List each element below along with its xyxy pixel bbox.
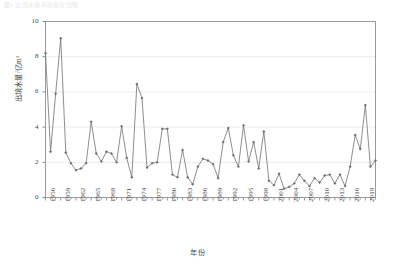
x-tick-label: 1974 (140, 187, 148, 201)
data-point-marker (354, 134, 356, 136)
x-tick-label: 2001 (277, 187, 285, 201)
data-point-marker (263, 130, 265, 132)
x-tick-label: 2004 (292, 187, 300, 201)
data-point-marker (136, 83, 138, 85)
x-tick-label: 1995 (247, 187, 255, 201)
y-tick-label: 4 (23, 123, 39, 131)
x-tick-label: 1965 (94, 187, 102, 201)
plot-frame (46, 22, 376, 198)
data-point-marker (364, 104, 366, 106)
data-line (46, 38, 376, 188)
x-tick-label: 2010 (323, 187, 331, 201)
data-point-marker (156, 161, 158, 163)
x-tick-label: 1977 (155, 187, 163, 201)
data-point-marker (55, 93, 57, 95)
y-tick-label: 10 (23, 17, 39, 25)
data-point-marker (49, 151, 51, 153)
y-tick-label: 6 (23, 87, 39, 95)
data-point-marker (349, 166, 351, 168)
data-point-marker (141, 97, 143, 99)
data-point-marker (222, 141, 224, 143)
x-tick-label: 1986 (201, 187, 209, 201)
data-point-marker (166, 128, 168, 130)
x-tick-label: 2013 (338, 187, 346, 201)
x-tick-label: 1983 (186, 187, 194, 201)
x-tick-label: 1980 (170, 187, 178, 201)
x-tick-label: 1962 (79, 187, 87, 201)
line-chart (0, 0, 395, 266)
x-tick-label: 1971 (125, 187, 133, 201)
data-point-marker (90, 121, 92, 123)
data-point-marker (44, 52, 46, 54)
x-tick-label: 1959 (64, 187, 72, 201)
data-point-marker (60, 37, 62, 39)
data-point-marker (242, 124, 244, 126)
data-point-marker (253, 141, 255, 143)
x-tick-label: 2016 (353, 187, 361, 201)
x-tick-label: 1989 (216, 187, 224, 201)
x-tick-label: 1968 (109, 187, 117, 201)
data-point-marker (161, 128, 163, 130)
x-tick-label: 1956 (49, 187, 57, 201)
x-tick-label: 1992 (231, 187, 239, 201)
data-point-marker (126, 157, 128, 159)
x-tick-label: 1998 (262, 187, 270, 201)
data-point-marker (131, 176, 133, 178)
y-tick-label: 2 (23, 158, 39, 166)
y-tick-label: 8 (23, 52, 39, 60)
data-point-marker (217, 177, 219, 179)
data-point-marker (359, 148, 361, 150)
data-point-marker (181, 149, 183, 151)
y-tick-label: 0 (23, 193, 39, 201)
figure-container: 图2 出境水量年际变化过程 出境水量/亿m³ 年份 0246810 195619… (0, 0, 395, 266)
x-tick-label: 2019 (368, 187, 376, 201)
data-point-marker (258, 167, 260, 169)
x-tick-label: 2007 (307, 187, 315, 201)
